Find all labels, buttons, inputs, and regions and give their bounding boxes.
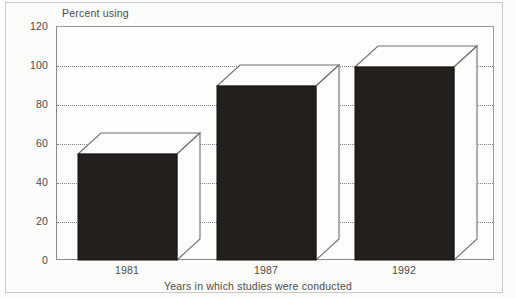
chart-page: Percent using 120 100 80 60 40 20 0 <box>0 0 516 298</box>
y-tick-label-40: 40 <box>36 176 48 188</box>
bar-1981-side-face <box>177 133 200 260</box>
bar-1992-front-face <box>355 67 454 260</box>
bar-1987-front-face <box>217 86 316 260</box>
y-tick-label-20: 20 <box>36 215 48 227</box>
y-tick-label-100: 100 <box>30 59 48 71</box>
bar-1981-front-face <box>78 154 177 260</box>
y-axis-tick-labels: 120 100 80 60 40 20 0 <box>0 0 56 298</box>
y-tick-label-80: 80 <box>36 98 48 110</box>
x-tick-label-1987: 1987 <box>254 264 278 276</box>
y-axis-title: Percent using <box>62 7 129 19</box>
x-tick-label-1992: 1992 <box>392 264 416 276</box>
bar-1992-side-face <box>454 46 477 260</box>
plot-area <box>56 26 494 260</box>
y-tick-label-60: 60 <box>36 137 48 149</box>
bar-1987-3d <box>216 27 340 261</box>
x-axis-title: Years in which studies were conducted <box>164 280 352 292</box>
x-tick-label-1981: 1981 <box>115 264 139 276</box>
y-tick-label-120: 120 <box>30 20 48 32</box>
bar-1987-side-face <box>316 65 339 260</box>
y-tick-label-0: 0 <box>42 254 48 266</box>
bar-1992-3d <box>354 27 478 261</box>
bar-1981-3d <box>77 27 201 261</box>
